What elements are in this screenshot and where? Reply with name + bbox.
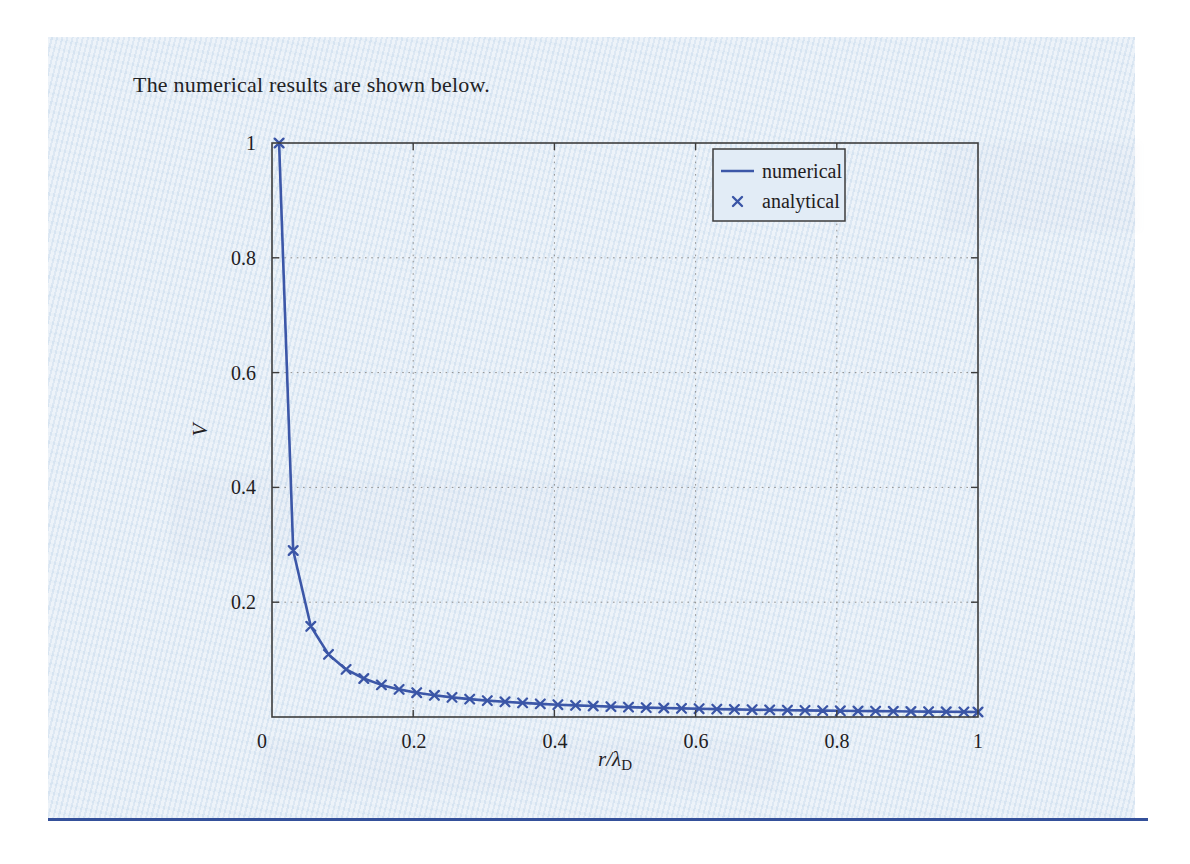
numerical-curve [279,143,978,712]
plot-frame [272,143,978,717]
analytical-markers [275,139,983,717]
y-tick-label: 0.6 [231,362,256,384]
legend-entry-label: analytical [762,190,840,213]
x-tick-label: 0.2 [402,730,427,752]
grid-lines [272,143,978,717]
x-tick-label: 0 [257,730,267,752]
legend: numerical analytical [713,149,845,221]
legend-entry-label: numerical [762,160,842,182]
potential-plot: 1 0.8 0.6 0.4 0.2 0 0.2 0.4 0.6 0.8 1 V … [0,0,1190,864]
y-tick-label: 0.2 [231,591,256,613]
axis-ticks [272,143,978,717]
x-tick-label: 1 [973,730,983,752]
x-axis-label-main: r/λ [598,747,621,771]
y-tick-label: 0.4 [231,476,256,498]
x-tick-label: 0.8 [825,730,850,752]
x-tick-label: 0.6 [684,730,709,752]
data-curves [275,139,983,717]
y-tick-label: 1 [246,132,256,154]
x-axis-label: r/λD [598,747,632,773]
y-tick-label: 0.8 [231,247,256,269]
scanned-textbook-page: The numerical results are shown below. 1… [0,0,1190,864]
x-tick-label: 0.4 [543,730,568,752]
y-axis-label: V [188,421,212,436]
x-axis-label-subscript: D [621,757,632,773]
